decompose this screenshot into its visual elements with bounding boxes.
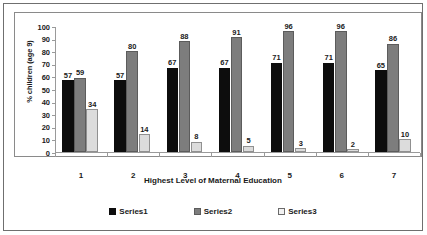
chart-legend: Series1Series2Series3: [4, 207, 422, 216]
bar-value-label: 80: [123, 43, 141, 51]
bar-series2-5[interactable]: [283, 31, 295, 152]
bar-value-label: 88: [176, 33, 194, 41]
y-tick-label: 30: [28, 112, 50, 119]
bar-series3-2[interactable]: [139, 134, 151, 152]
bar-group-bars: 67915: [212, 27, 264, 152]
figure-outer-frame: % children (age 9) 010203040506070809010…: [3, 3, 423, 231]
x-tick-mark: [107, 153, 108, 157]
legend-label: Series1: [119, 207, 147, 216]
bar-series3-6[interactable]: [347, 149, 359, 152]
bar-value-label: 34: [83, 101, 101, 109]
axes: 0102030405060708090100 57593457801467888…: [55, 27, 420, 153]
x-tick-mark: [368, 153, 369, 157]
bar-group: 71962: [317, 27, 369, 152]
bar-group: 575934: [56, 27, 108, 152]
bar-series1-6[interactable]: [323, 63, 335, 152]
bar-value-label: 96: [280, 23, 298, 31]
y-tick-label: 40: [28, 99, 50, 106]
bar-series3-1[interactable]: [86, 109, 98, 152]
y-tick-label: 90: [28, 36, 50, 43]
chart-screenshot: % children (age 9) 010203040506070809010…: [0, 0, 427, 235]
bar-value-label: 3: [292, 140, 310, 148]
bar-series1-2[interactable]: [114, 80, 126, 152]
bar-group-bars: 71962: [317, 27, 369, 152]
bar-group: 71963: [265, 27, 317, 152]
bar-value-label: 96: [332, 23, 350, 31]
legend-item-series2[interactable]: Series2: [194, 207, 232, 216]
bar-group: 578014: [108, 27, 160, 152]
bar-group-bars: 71963: [265, 27, 317, 152]
x-tick-mark: [316, 153, 317, 157]
y-tick-label: 100: [28, 24, 50, 31]
legend-label: Series2: [204, 207, 232, 216]
bar-value-label: 91: [228, 29, 246, 37]
bar-series1-5[interactable]: [271, 63, 283, 152]
x-tick-mark: [264, 153, 265, 157]
legend-label: Series3: [288, 207, 316, 216]
y-tick-label: 0: [28, 150, 50, 157]
y-tick-label: 20: [28, 124, 50, 131]
bar-value-label: 10: [396, 131, 414, 139]
bar-series3-3[interactable]: [191, 142, 203, 152]
bar-group-bars: 67888: [160, 27, 212, 152]
bar-group-bars: 578014: [108, 27, 160, 152]
x-axis-title: Highest Level of Maternal Education: [4, 176, 422, 185]
bar-group-bars: 658610: [369, 27, 421, 152]
bar-value-label: 2: [344, 141, 362, 149]
y-tick-label: 80: [28, 49, 50, 56]
bar-series3-7[interactable]: [399, 139, 411, 152]
bar-series2-2[interactable]: [126, 51, 138, 152]
bar-value-label: 14: [136, 126, 154, 134]
plot-frame: % children (age 9) 010203040506070809010…: [14, 12, 422, 157]
x-tick-mark: [55, 153, 56, 157]
x-tick-mark: [420, 153, 421, 157]
bar-series2-6[interactable]: [335, 31, 347, 152]
bar-series1-1[interactable]: [62, 80, 74, 152]
y-tick-label: 70: [28, 61, 50, 68]
y-tick-label: 10: [28, 137, 50, 144]
y-tick-label: 50: [28, 87, 50, 94]
bar-value-label: 5: [240, 137, 258, 145]
bar-group: 67888: [160, 27, 212, 152]
bar-group: 67915: [212, 27, 264, 152]
plot-area: 57593457801467888679157196371962658610: [56, 27, 420, 152]
bar-value-label: 59: [71, 69, 89, 77]
bar-series1-3[interactable]: [167, 68, 179, 152]
bar-group: 658610: [369, 27, 421, 152]
legend-swatch-icon: [278, 208, 285, 215]
y-tick-label: 60: [28, 74, 50, 81]
legend-swatch-icon: [109, 208, 116, 215]
legend-item-series3[interactable]: Series3: [278, 207, 316, 216]
bar-series1-4[interactable]: [219, 68, 231, 152]
legend-item-series1[interactable]: Series1: [109, 207, 147, 216]
x-tick-mark: [159, 153, 160, 157]
x-axis-line: [55, 152, 420, 153]
bar-value-label: 86: [384, 35, 402, 43]
bar-group-bars: 575934: [56, 27, 108, 152]
bar-series2-4[interactable]: [231, 37, 243, 152]
x-tick-mark: [211, 153, 212, 157]
bar-series1-7[interactable]: [375, 70, 387, 152]
bar-series3-5[interactable]: [295, 148, 307, 152]
bar-series2-1[interactable]: [74, 78, 86, 152]
bar-series3-4[interactable]: [243, 146, 255, 152]
bar-value-label: 8: [188, 133, 206, 141]
legend-swatch-icon: [194, 208, 201, 215]
